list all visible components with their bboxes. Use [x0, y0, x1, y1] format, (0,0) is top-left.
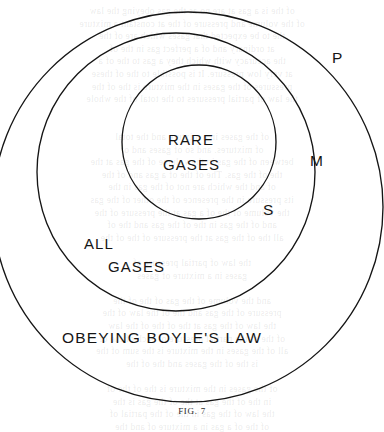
inner-circle-key-label: S [263, 201, 274, 219]
middle-circle-key-label: M [310, 152, 323, 170]
inner-region-label-line1: RARE [168, 131, 214, 148]
middle-region-label-line2: GASES [108, 258, 165, 275]
outer-circle-key-label: P [332, 49, 343, 67]
figure-caption: FIG. 7 [0, 406, 384, 416]
outer-region-label: OBEYING BOYLE'S LAW [62, 329, 262, 347]
inner-region-label-line2: GASES [163, 156, 220, 173]
middle-region-label-line1: ALL [84, 235, 114, 252]
